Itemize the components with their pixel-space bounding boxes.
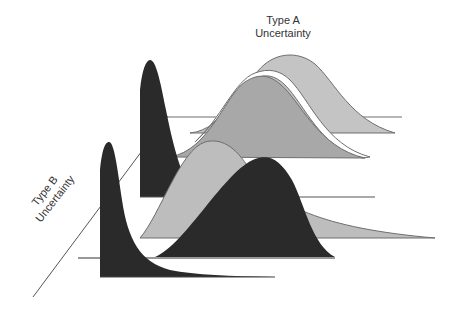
type-a-label-line1: Type A: [238, 14, 328, 27]
type-a-axis-label: Type A Uncertainty: [238, 14, 328, 40]
type-a-label-line2: Uncertainty: [238, 27, 328, 40]
uncertainty-diagram: [0, 0, 451, 311]
